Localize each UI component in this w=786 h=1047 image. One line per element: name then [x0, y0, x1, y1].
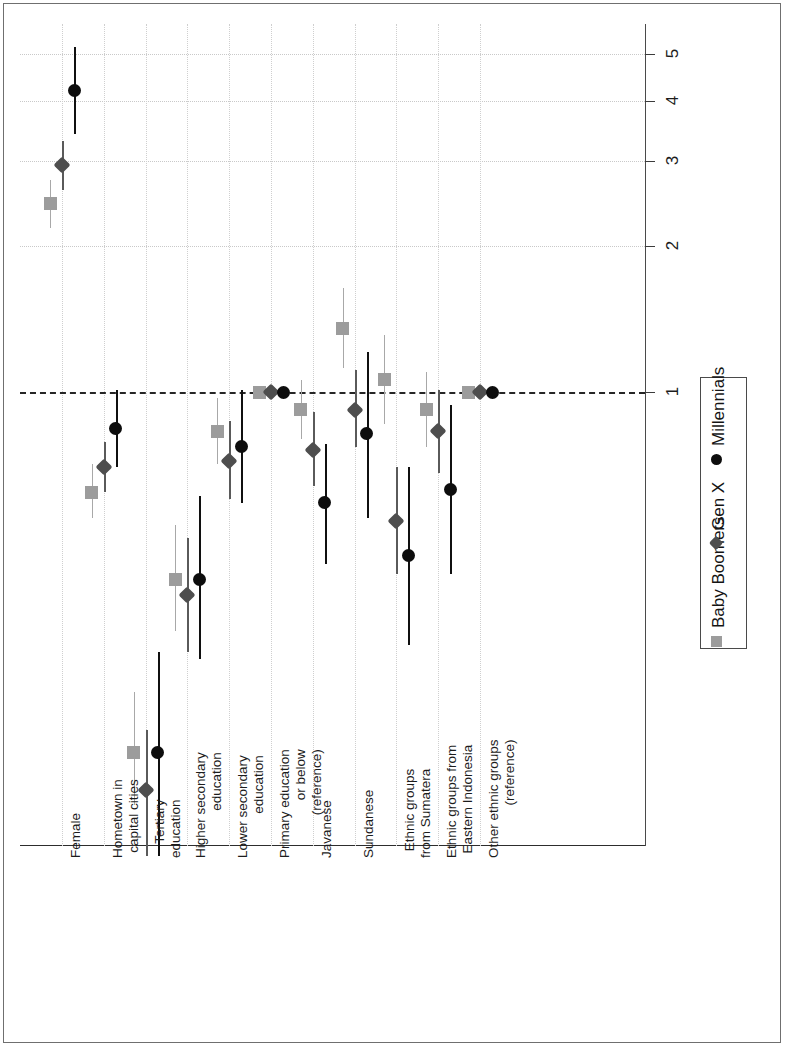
data-point-marker — [179, 587, 196, 604]
category-label-line: from Sumatera — [418, 769, 434, 858]
data-point-marker — [336, 322, 349, 335]
category-gridline — [396, 24, 397, 846]
data-point-marker — [169, 573, 182, 586]
data-point-marker — [402, 549, 415, 562]
category-label-line: Sundanese — [361, 790, 377, 858]
category-label-line: Tertiary — [152, 799, 168, 858]
data-point-marker — [277, 386, 290, 399]
value-axis-tick — [645, 161, 655, 162]
data-point-marker — [211, 425, 224, 438]
data-point-marker — [85, 486, 98, 499]
data-point-marker — [444, 483, 457, 496]
category-label-line: Ethnic groups from — [444, 745, 460, 858]
category-gridline — [271, 24, 272, 846]
data-point-marker — [318, 496, 331, 509]
category-label: Female — [68, 813, 84, 858]
category-label: Sundanese — [361, 790, 377, 858]
data-point-marker — [44, 197, 57, 210]
category-label-line: Other ethnic groups — [486, 739, 502, 858]
data-point-marker — [430, 423, 447, 440]
legend-label: Baby Boomers — [710, 517, 727, 629]
value-axis-tick-label: 3 — [664, 148, 681, 174]
data-point-marker — [235, 440, 248, 453]
value-axis-line — [645, 24, 646, 846]
value-axis-tick — [645, 54, 655, 55]
data-point-marker — [346, 401, 363, 418]
value-axis-tick — [645, 392, 655, 393]
category-label-line: Higher secondary — [193, 752, 209, 858]
value-axis-tick-label: 2 — [664, 233, 681, 259]
value-axis-tick — [645, 101, 655, 102]
value-gridline — [20, 101, 645, 102]
category-label-line: education — [251, 755, 267, 858]
category-label-line: capital cities — [126, 779, 142, 858]
data-point-marker — [378, 373, 391, 386]
category-label: Lower secondaryeducation — [235, 755, 267, 858]
data-point-marker — [304, 441, 321, 458]
data-point-marker — [193, 573, 206, 586]
data-point-marker — [420, 403, 433, 416]
legend-box: Baby BoomersGen XMillennials — [700, 377, 747, 649]
data-point-marker — [360, 427, 373, 440]
category-label-line: Lower secondary — [235, 755, 251, 858]
category-label-line: Hometown in — [110, 779, 126, 858]
data-point-marker — [127, 746, 140, 759]
legend-label: Millennials — [710, 367, 727, 446]
category-label-line: Female — [68, 813, 84, 858]
category-label-line: Ethnic groups — [402, 769, 418, 858]
category-label: Ethnic groupsfrom Sumatera — [402, 769, 434, 858]
category-label-line: or below — [293, 749, 309, 858]
value-gridline — [20, 246, 645, 247]
category-label: Other ethnic groups(reference) — [486, 739, 518, 858]
category-label: Javanese — [319, 800, 335, 858]
category-label-line: education — [209, 752, 225, 858]
data-point-marker — [388, 513, 405, 530]
value-axis-tick-label: 1 — [664, 379, 681, 405]
data-point-marker — [221, 452, 238, 469]
data-point-marker — [68, 84, 81, 97]
value-axis-tick-label: 4 — [664, 87, 681, 113]
category-gridline — [187, 24, 188, 846]
category-label-line: education — [168, 799, 184, 858]
value-axis-tick-label: 5 — [664, 41, 681, 67]
category-label-line: (reference) — [502, 739, 518, 858]
category-label: Hometown incapital cities — [110, 779, 142, 858]
data-point-marker — [95, 458, 112, 475]
category-gridline — [104, 24, 105, 846]
forest-plot-area: 12345 — [20, 24, 645, 846]
category-label: Higher secondaryeducation — [193, 752, 225, 858]
legend-label: Gen X — [710, 482, 727, 530]
chart-page: 12345 FemaleHometown incapital citiesTer… — [0, 0, 786, 1047]
data-point-marker — [151, 746, 164, 759]
data-point-marker — [294, 403, 307, 416]
data-point-marker — [109, 422, 122, 435]
category-label-line: Eastern Indonesia — [460, 745, 476, 858]
category-label-line: Javanese — [319, 800, 335, 858]
value-axis-tick — [645, 246, 655, 247]
category-label: Tertiaryeducation — [152, 799, 184, 858]
category-gridline — [146, 24, 147, 846]
legend-marker-sq — [711, 636, 722, 647]
value-gridline — [20, 161, 645, 162]
category-label-line: Primary education — [277, 749, 293, 858]
reference-line-at-one — [20, 392, 645, 394]
category-gridline — [480, 24, 481, 846]
category-label: Primary educationor below(reference) — [277, 749, 325, 858]
data-point-marker — [486, 386, 499, 399]
legend-marker-ci — [711, 454, 722, 465]
category-label: Ethnic groups fromEastern Indonesia — [444, 745, 476, 858]
data-point-marker — [54, 156, 71, 173]
value-gridline — [20, 54, 645, 55]
